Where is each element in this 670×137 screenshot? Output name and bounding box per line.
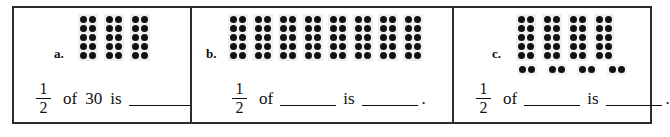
dot <box>527 43 534 50</box>
dot <box>314 25 321 32</box>
dot <box>106 43 113 50</box>
dot-cell <box>608 65 617 74</box>
ten-frames-row-c <box>516 14 614 61</box>
dot-cell <box>79 24 88 33</box>
dot <box>314 52 321 59</box>
fraction-denominator-a: 2 <box>37 99 51 116</box>
dot-cell <box>131 33 140 42</box>
dot-cell <box>263 24 272 33</box>
dot <box>330 25 337 32</box>
dot-cell <box>279 51 288 60</box>
fraction-numerator-a: 1 <box>37 81 51 98</box>
period-c: . <box>666 89 670 109</box>
dot <box>80 16 87 23</box>
dot-cell <box>288 24 297 33</box>
dot-cell <box>105 33 114 42</box>
panel-label-a: a. <box>54 46 64 62</box>
pair-group <box>517 64 537 75</box>
dot-cell <box>131 42 140 51</box>
dot-cell <box>238 51 247 60</box>
dot <box>339 25 346 32</box>
dot-cell <box>254 15 263 24</box>
dot <box>405 43 412 50</box>
whole-blank-b[interactable] <box>280 92 336 106</box>
dot <box>106 52 113 59</box>
dot-cell <box>379 51 388 60</box>
dot <box>414 43 421 50</box>
dot <box>255 16 262 23</box>
dot <box>239 16 246 23</box>
dot <box>255 43 262 50</box>
dot <box>579 52 586 59</box>
dot <box>553 34 560 41</box>
answer-blank-b[interactable] <box>362 92 418 106</box>
dot-cell <box>517 24 526 33</box>
answer-blank-c[interactable] <box>606 92 662 106</box>
dot <box>230 43 237 50</box>
dot-cell <box>79 15 88 24</box>
dot-cell <box>413 24 422 33</box>
dot <box>264 34 271 41</box>
dot-cell <box>279 33 288 42</box>
dot-cell <box>557 65 566 74</box>
dot-cell <box>354 15 363 24</box>
dot-cell <box>114 42 123 51</box>
dot <box>518 25 525 32</box>
dot-cell <box>527 65 536 74</box>
dot-cell <box>413 51 422 60</box>
dot <box>330 34 337 41</box>
dot-cell <box>578 15 587 24</box>
word-of-b: of <box>259 89 273 109</box>
dot-cell <box>569 24 578 33</box>
dot-cell <box>548 65 557 74</box>
fraction-one-half-c: 1 2 <box>476 81 491 116</box>
dot-cell <box>517 51 526 60</box>
dot <box>280 16 287 23</box>
ten-frame <box>278 14 298 61</box>
dot-cell <box>114 24 123 33</box>
dot-cell <box>388 42 397 51</box>
dot-cell <box>140 15 149 24</box>
dot-cell <box>569 33 578 42</box>
dot <box>80 25 87 32</box>
dot <box>544 43 551 50</box>
dot-cell <box>363 42 372 51</box>
dot-cell <box>338 24 347 33</box>
dot-cell <box>354 24 363 33</box>
dot-cell <box>552 24 561 33</box>
dot-diagram-c <box>454 12 650 78</box>
dot <box>618 66 625 73</box>
dot-cell <box>354 51 363 60</box>
dot-cell <box>517 15 526 24</box>
dot-cell <box>105 42 114 51</box>
dot-cell <box>526 24 535 33</box>
dot-cell <box>88 15 97 24</box>
ten-frames-row-b <box>228 14 423 61</box>
dot <box>80 52 87 59</box>
dot-cell <box>329 42 338 51</box>
dot <box>528 66 535 73</box>
dot <box>414 16 421 23</box>
dot <box>605 16 612 23</box>
dot <box>106 34 113 41</box>
dot <box>553 52 560 59</box>
dot <box>280 34 287 41</box>
answer-blank-a[interactable] <box>129 92 191 106</box>
dot <box>230 34 237 41</box>
dot-cell <box>140 51 149 60</box>
dot <box>132 43 139 50</box>
dot <box>355 25 362 32</box>
dot <box>132 34 139 41</box>
whole-blank-c[interactable] <box>524 92 580 106</box>
dot-cell <box>263 33 272 42</box>
word-of-a: of <box>63 89 77 109</box>
dot <box>289 52 296 59</box>
fraction-numerator-c: 1 <box>477 81 491 98</box>
dot <box>380 43 387 50</box>
dot <box>544 34 551 41</box>
pair-group <box>577 64 597 75</box>
dot-cell <box>526 51 535 60</box>
dot-cell <box>517 33 526 42</box>
dot-cell <box>363 33 372 42</box>
dot-cell <box>105 24 114 33</box>
